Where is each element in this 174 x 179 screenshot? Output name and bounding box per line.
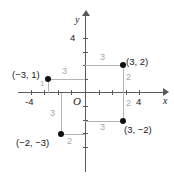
run-label-left-upper: 3 bbox=[62, 66, 67, 76]
x-tick-label-4: 4 bbox=[136, 96, 141, 107]
x-axis-line bbox=[18, 92, 164, 93]
rise-label-right-upper: 2 bbox=[126, 72, 131, 82]
rise-label-left-lower: 3 bbox=[50, 108, 55, 118]
x-axis-label: x bbox=[163, 95, 167, 106]
point-neg3-1 bbox=[45, 76, 51, 82]
guide-rise-right-upper bbox=[123, 65, 124, 93]
y-tick-label-4: 4 bbox=[70, 32, 75, 43]
x-tick-label--4: -4 bbox=[25, 96, 33, 107]
rise-label-left-upper: 1 bbox=[40, 79, 44, 88]
point-label-neg3-1: (−3, 1) bbox=[12, 69, 40, 80]
point-label-3-neg2: (3, −2) bbox=[124, 124, 152, 135]
y-tick-4 bbox=[83, 38, 88, 39]
x-tick-1 bbox=[99, 90, 100, 95]
rise-label-right-lower: 2 bbox=[126, 98, 131, 108]
x-tick--4 bbox=[31, 90, 32, 95]
x-tick--1 bbox=[71, 90, 72, 95]
point-label-3-2: (3, 2) bbox=[126, 56, 148, 67]
run-label-right-upper: 3 bbox=[100, 52, 105, 62]
x-tick-4 bbox=[139, 90, 140, 95]
point-label-neg2-neg3: (−2, −3) bbox=[16, 137, 49, 148]
guide-run-left-lower bbox=[61, 134, 85, 135]
y-axis-arrow-icon bbox=[82, 10, 90, 16]
guide-rise-right-lower bbox=[123, 93, 124, 121]
y-tick--1 bbox=[83, 106, 88, 107]
run-label-right-lower: 3 bbox=[100, 122, 105, 132]
x-tick--2 bbox=[58, 90, 59, 95]
x-tick-2 bbox=[112, 90, 113, 95]
guide-run-right-upper bbox=[85, 65, 123, 66]
guide-run-left-upper bbox=[48, 79, 85, 80]
point-neg2-neg3 bbox=[58, 131, 64, 137]
coordinate-plane-figure: y x O -4 4 4 3 1 3 2 2 3 3 2 (−3, 1) (3,… bbox=[0, 0, 174, 179]
y-tick-3 bbox=[83, 52, 88, 53]
x-tick-3 bbox=[126, 90, 127, 95]
y-tick--4 bbox=[83, 147, 88, 148]
run-label-left-lower: 2 bbox=[67, 136, 72, 146]
origin-label: O bbox=[73, 95, 81, 107]
guide-rise-left-lower bbox=[61, 93, 62, 134]
x-tick--3 bbox=[44, 90, 45, 95]
y-axis-label: y bbox=[75, 14, 79, 25]
